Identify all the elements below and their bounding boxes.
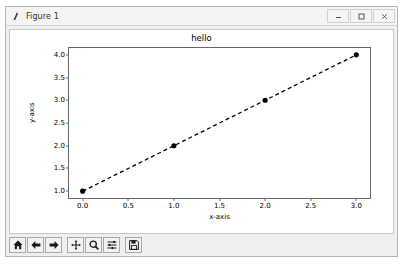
y-tick-mark — [66, 100, 69, 101]
zoom-button[interactable] — [85, 237, 102, 253]
y-tick-label: 3.0 — [54, 96, 65, 104]
navigation-toolbar — [6, 234, 397, 256]
pan-button[interactable] — [67, 237, 84, 253]
x-tick-mark — [173, 198, 174, 201]
data-line — [83, 55, 357, 191]
y-axis-label: y-axis — [28, 102, 36, 123]
window-title: Figure 1 — [26, 12, 59, 21]
close-button[interactable] — [373, 9, 395, 23]
figure-window: Figure 1 hello y-axis x-ax — [5, 6, 398, 257]
y-tick-mark — [66, 191, 69, 192]
data-point-marker — [263, 98, 268, 103]
x-tick-label: 2.5 — [305, 202, 316, 210]
plot-axes[interactable]: 1.01.52.02.53.03.54.00.00.51.01.52.02.53… — [68, 47, 371, 199]
window-controls — [326, 9, 395, 23]
x-tick-label: 1.5 — [214, 202, 225, 210]
home-button[interactable] — [9, 237, 26, 253]
x-tick-label: 1.0 — [168, 202, 179, 210]
y-tick-label: 1.5 — [54, 164, 65, 172]
matplotlib-logo-icon — [11, 11, 22, 22]
x-tick-mark — [128, 198, 129, 201]
data-point-marker — [354, 52, 359, 57]
y-tick-label: 3.5 — [54, 74, 65, 82]
y-tick-label: 1.0 — [54, 187, 65, 195]
plot-title: hello — [10, 33, 393, 43]
data-point-marker — [80, 189, 85, 194]
y-tick-mark — [66, 54, 69, 55]
figure-area: hello y-axis x-axis 1.01.52.02.53.03.54.… — [10, 30, 393, 233]
configure-subplots-button[interactable] — [103, 237, 120, 253]
y-tick-label: 2.5 — [54, 119, 65, 127]
x-tick-mark — [82, 198, 83, 201]
figure-canvas[interactable]: hello y-axis x-axis 1.01.52.02.53.03.54.… — [9, 29, 394, 234]
forward-button[interactable] — [45, 237, 62, 253]
data-point-marker — [171, 143, 176, 148]
save-button[interactable] — [125, 237, 142, 253]
back-button[interactable] — [27, 237, 44, 253]
x-tick-label: 0.5 — [123, 202, 134, 210]
x-tick-mark — [356, 198, 357, 201]
y-tick-mark — [66, 77, 69, 78]
y-tick-label: 4.0 — [54, 51, 65, 59]
x-tick-mark — [265, 198, 266, 201]
maximize-button[interactable] — [350, 9, 372, 23]
x-tick-label: 2.0 — [260, 202, 271, 210]
y-tick-mark — [66, 123, 69, 124]
plot-series-svg — [69, 48, 370, 198]
minimize-button[interactable] — [327, 9, 349, 23]
x-tick-mark — [310, 198, 311, 201]
y-tick-mark — [66, 145, 69, 146]
x-tick-label: 3.0 — [351, 202, 362, 210]
window-titlebar[interactable]: Figure 1 — [6, 7, 397, 26]
x-axis-label: x-axis — [68, 213, 371, 221]
x-tick-label: 0.0 — [77, 202, 88, 210]
y-tick-mark — [66, 168, 69, 169]
x-tick-mark — [219, 198, 220, 201]
y-tick-label: 2.0 — [54, 142, 65, 150]
